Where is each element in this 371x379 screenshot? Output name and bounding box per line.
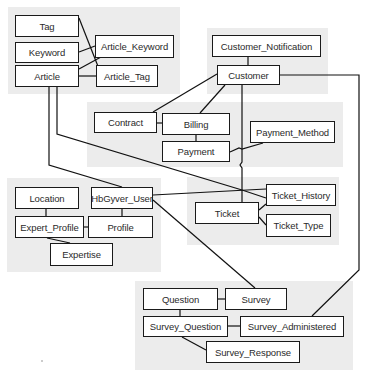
entity-ticket[interactable]: Ticket (195, 202, 259, 224)
entity-article[interactable]: Article (15, 65, 79, 87)
entity-survey-question[interactable]: Survey_Question (143, 316, 228, 337)
entity-tag[interactable]: Tag (15, 15, 79, 37)
entity-article-keyword[interactable]: Article_Keyword (95, 35, 174, 58)
entity-location[interactable]: Location (15, 187, 79, 209)
entity-ticket-type[interactable]: Ticket_Type (266, 214, 331, 237)
entity-expert-profile[interactable]: Expert_Profile (15, 216, 84, 238)
entity-question[interactable]: Question (143, 288, 218, 310)
scan-artifact-dot (41, 360, 43, 362)
entity-billing[interactable]: Billing (162, 113, 230, 135)
entity-contract[interactable]: Contract (94, 112, 157, 133)
entity-survey-response[interactable]: Survey_Response (206, 341, 300, 363)
entity-survey[interactable]: Survey (225, 288, 287, 310)
entity-payment-method[interactable]: Payment_Method (250, 121, 335, 143)
entity-profile[interactable]: Profile (88, 216, 153, 238)
entity-hbgyver-user[interactable]: HbGyver_User (91, 187, 153, 209)
entity-customer-notification[interactable]: Customer_Notification (212, 35, 321, 57)
entity-payment[interactable]: Payment (162, 141, 230, 162)
entity-customer[interactable]: Customer (217, 65, 280, 85)
entity-ticket-history[interactable]: Ticket_History (266, 184, 336, 206)
entity-article-tag[interactable]: Article_Tag (96, 65, 158, 87)
entity-keyword[interactable]: Keyword (15, 42, 79, 63)
entity-survey-administered[interactable]: Survey_Administered (240, 316, 344, 337)
entity-expertise[interactable]: Expertise (50, 243, 113, 266)
